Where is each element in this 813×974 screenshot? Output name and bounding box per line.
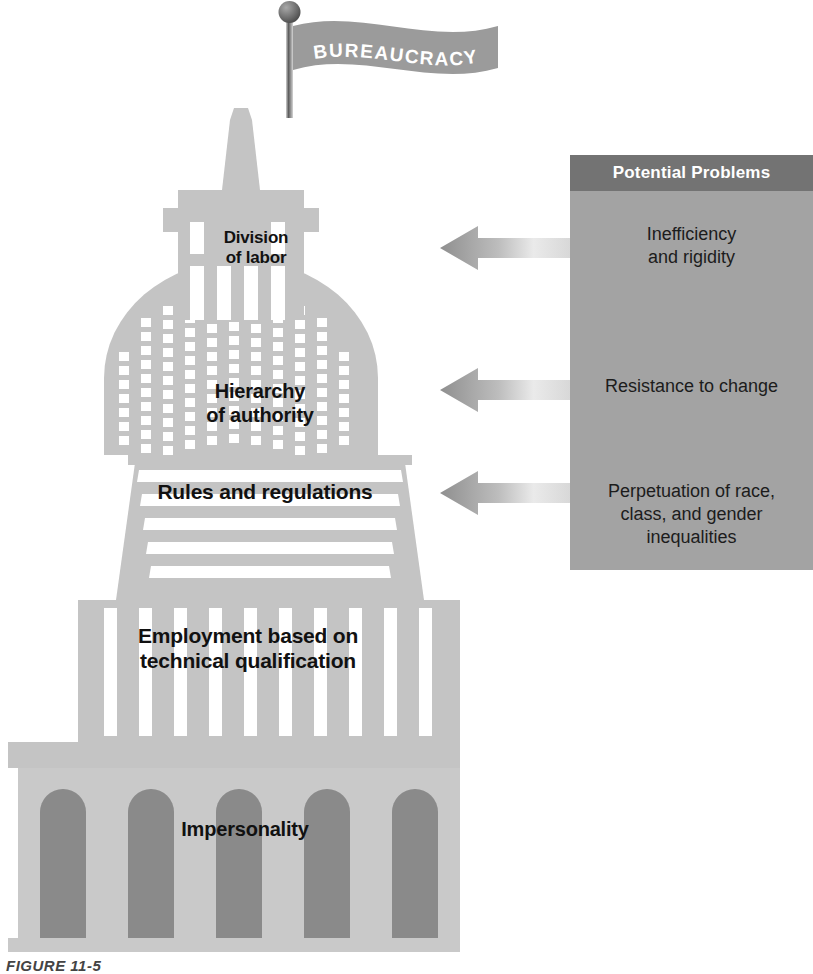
arrow-inefficiency	[440, 226, 570, 270]
problem-inequality: Perpetuation of race, class, and gender …	[570, 480, 813, 549]
building-level-rules	[116, 455, 424, 600]
potential-problems-panel: Potential Problems Inefficiency and rigi…	[570, 155, 813, 570]
figure-caption: FIGURE 11-5	[6, 957, 101, 974]
problem-inefficiency: Inefficiency and rigidity	[570, 223, 813, 269]
flagpole-finial-icon	[279, 1, 301, 23]
panel-title: Potential Problems	[570, 155, 813, 191]
building-silhouette	[8, 108, 460, 952]
building-level-impersonality	[8, 742, 460, 952]
arrow-resistance	[440, 368, 570, 412]
arrow-group	[440, 226, 570, 515]
building-level-employment	[78, 600, 460, 742]
building-level-division	[163, 108, 319, 320]
arrow-inequality	[440, 471, 570, 515]
problem-resistance: Resistance to change	[570, 375, 813, 398]
